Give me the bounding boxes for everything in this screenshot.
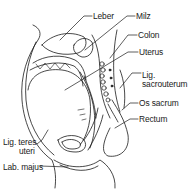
- label-os-sacrum: Os sacrum: [139, 99, 179, 108]
- rectum-shape: [104, 100, 129, 156]
- milz-shape: [73, 38, 92, 57]
- label-uterus: Uterus: [139, 48, 163, 57]
- label-milz: Milz: [136, 12, 151, 21]
- label-colon: Colon: [138, 31, 159, 40]
- label-lig-teres-line2: uteri: [19, 147, 35, 156]
- label-lab-majus: Lab. majus: [3, 163, 43, 172]
- label-leber: Leber: [93, 12, 114, 21]
- label-lig-sacrouterum-line2: sacrouterum: [142, 80, 187, 89]
- pelvis-illustration: [0, 0, 189, 189]
- uterus-shape: [28, 70, 91, 145]
- label-rectum: Rectum: [139, 115, 167, 124]
- leber-shape: [42, 34, 86, 55]
- anatomy-diagram: Leber Milz Colon Uterus Lig. sacrouterum…: [0, 0, 189, 189]
